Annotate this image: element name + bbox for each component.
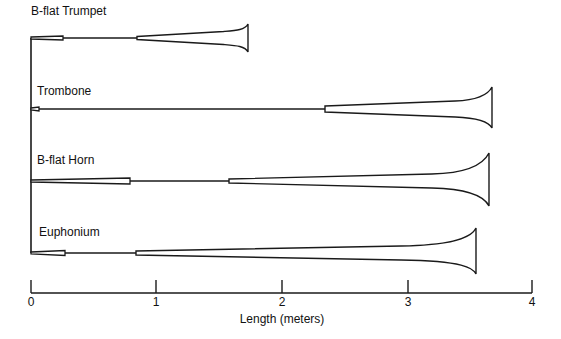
euphonium-mouthpipe xyxy=(31,251,65,256)
trombone-mouthpipe xyxy=(31,107,39,111)
tick-label-0: 0 xyxy=(28,295,35,309)
instrument-label-b-flat-trumpet: B-flat Trumpet xyxy=(31,4,106,18)
b-flat-trumpet-bell xyxy=(137,24,248,52)
tick-label-4: 4 xyxy=(529,295,536,309)
tick-label-1: 1 xyxy=(153,295,160,309)
axis-title: Length (meters) xyxy=(240,312,325,326)
b-flat-trumpet-mouthpipe xyxy=(31,36,63,40)
b-flat-horn-bell xyxy=(229,153,489,206)
instrument-length-diagram xyxy=(0,0,561,339)
tick-label-2: 2 xyxy=(279,295,286,309)
euphonium-bell xyxy=(136,228,476,274)
trombone-bell xyxy=(325,87,492,128)
instrument-label-b-flat-horn: B-flat Horn xyxy=(37,153,94,167)
tick-label-3: 3 xyxy=(405,295,412,309)
instrument-label-euphonium: Euphonium xyxy=(39,225,100,239)
instrument-label-trombone: Trombone xyxy=(37,84,91,98)
b-flat-horn-mouthpipe xyxy=(31,178,130,184)
